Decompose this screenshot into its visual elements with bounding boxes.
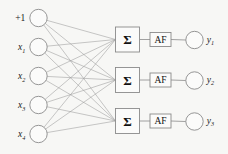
input-label-4: x3 xyxy=(17,100,25,111)
input-node-2 xyxy=(30,38,47,55)
connector-af-to-output-3 xyxy=(171,121,186,122)
output-label-sub-3: 3 xyxy=(210,120,214,127)
activation-label-1: AF xyxy=(154,35,166,45)
network-canvas: +1x1x2x3x4 ΣAFy1ΣAFy2ΣAFy3 xyxy=(0,0,228,154)
connection-edge-4-1 xyxy=(45,40,115,100)
connection-edge-2-1 xyxy=(47,40,115,47)
input-node-1 xyxy=(30,9,47,26)
activation-label-2: AF xyxy=(154,75,166,85)
connection-edge-5-3 xyxy=(47,121,115,133)
output-node-3 xyxy=(186,113,203,130)
connection-edge-3-3 xyxy=(46,80,115,121)
input-label-main-1: +1 xyxy=(15,13,25,23)
input-node-5 xyxy=(30,125,47,142)
input-label-1: +1 xyxy=(15,13,25,23)
input-label-sub-2: 1 xyxy=(22,47,25,54)
output-node-2 xyxy=(186,72,203,89)
summation-symbol-2: Σ xyxy=(123,73,132,88)
connection-edge-1-1 xyxy=(47,20,116,39)
output-label-sub-2: 2 xyxy=(211,79,214,86)
input-label-5: x4 xyxy=(17,129,25,140)
input-label-sub-5: 4 xyxy=(22,134,25,141)
input-label-sub-4: 3 xyxy=(21,105,25,112)
input-layer: +1x1x2x3x4 xyxy=(15,9,47,142)
connection-edge-3-1 xyxy=(46,40,115,73)
connection-edge-1-3 xyxy=(44,25,116,121)
connector-af-to-output-2 xyxy=(171,80,186,81)
output-label-1: y1 xyxy=(206,35,214,46)
edges-layer xyxy=(44,20,116,132)
neural-network-figure: +1x1x2x3x4 ΣAFy1ΣAFy2ΣAFy3 xyxy=(0,0,228,154)
summation-symbol-3: Σ xyxy=(123,114,132,129)
output-label-2: y2 xyxy=(206,75,214,86)
input-node-4 xyxy=(30,96,47,113)
connection-edge-4-3 xyxy=(47,107,115,121)
input-label-sub-3: 2 xyxy=(22,76,25,83)
input-label-3: x2 xyxy=(17,71,25,82)
rows-layer: ΣAFy1ΣAFy2ΣAFy3 xyxy=(116,27,215,134)
connector-af-to-output-1 xyxy=(171,40,186,41)
input-label-2: x1 xyxy=(17,42,25,53)
connection-edge-2-2 xyxy=(46,50,115,80)
summation-symbol-1: Σ xyxy=(123,32,132,47)
connection-edge-4-2 xyxy=(47,80,116,102)
input-node-3 xyxy=(30,67,47,84)
output-label-sub-1: 1 xyxy=(211,39,214,46)
activation-label-3: AF xyxy=(154,116,166,126)
connection-edge-1-2 xyxy=(45,23,115,80)
output-node-1 xyxy=(186,31,203,48)
connection-edge-3-2 xyxy=(47,76,115,80)
connection-edge-2-3 xyxy=(45,53,116,121)
output-label-3: y3 xyxy=(206,116,214,127)
